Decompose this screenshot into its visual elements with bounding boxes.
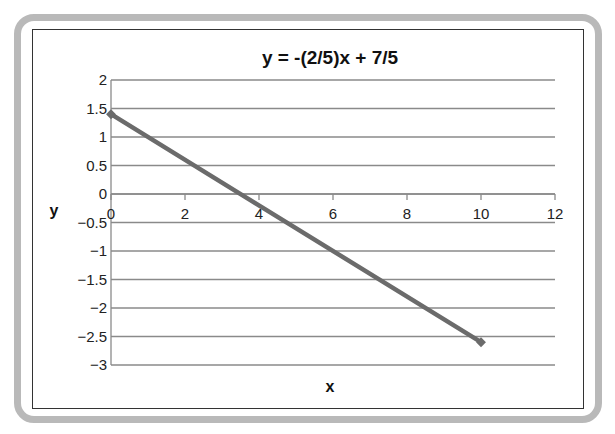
y-tick-label: −1.5 bbox=[77, 271, 107, 288]
y-tick-label: 0 bbox=[99, 185, 107, 202]
y-axis-label: y bbox=[50, 202, 59, 219]
x-tick-label: 8 bbox=[403, 205, 411, 222]
y-tick-label: −3 bbox=[90, 356, 107, 373]
y-tick-label: −2.5 bbox=[77, 328, 107, 345]
y-tick-label: 2 bbox=[99, 71, 107, 88]
x-axis bbox=[111, 194, 555, 200]
line-chart: y = -(2/5)x + 7/5 21.510.50−0.5−1−1.5−2−… bbox=[0, 0, 615, 434]
x-tick-label: 6 bbox=[329, 205, 337, 222]
y-tick-label: −0.5 bbox=[77, 214, 107, 231]
y-tick-label: −1 bbox=[90, 242, 107, 259]
x-axis-ticks: 024681012 bbox=[107, 205, 564, 222]
x-tick-label: 12 bbox=[547, 205, 564, 222]
x-tick-label: 0 bbox=[107, 205, 115, 222]
chart-title: y = -(2/5)x + 7/5 bbox=[262, 47, 399, 68]
x-tick-label: 2 bbox=[181, 205, 189, 222]
x-axis-label: x bbox=[326, 378, 335, 395]
y-tick-label: 1 bbox=[99, 128, 107, 145]
gridlines bbox=[111, 80, 555, 365]
x-tick-label: 10 bbox=[473, 205, 490, 222]
y-tick-label: 0.5 bbox=[86, 157, 107, 174]
y-tick-label: 1.5 bbox=[86, 100, 107, 117]
y-axis-ticks: 21.510.50−0.5−1−1.5−2−2.5−3 bbox=[77, 71, 107, 373]
data-series bbox=[106, 109, 486, 347]
y-tick-label: −2 bbox=[90, 299, 107, 316]
